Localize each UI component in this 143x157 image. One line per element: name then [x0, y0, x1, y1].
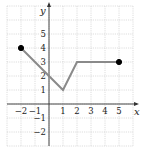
y-axis-label: y [39, 5, 46, 16]
y-axis-arrow [47, 2, 51, 7]
x-tick-label: 4 [102, 106, 107, 116]
tick-labels: −2−112345−2−112345 [15, 29, 122, 137]
y-tick-label: 5 [41, 29, 46, 39]
x-tick-label: 5 [116, 106, 121, 116]
endpoint-dot [116, 59, 121, 64]
x-axis-label: x [134, 106, 140, 117]
y-tick-label: −1 [33, 113, 46, 123]
y-tick-label: 1 [41, 85, 46, 95]
x-tick-label: 1 [60, 106, 65, 116]
series-group [18, 45, 121, 90]
chart: −2−112345−2−112345 x y [0, 0, 143, 157]
series-line [21, 48, 119, 90]
y-tick-label: −2 [33, 127, 46, 137]
y-tick-label: 4 [41, 43, 46, 53]
x-tick-label: −2 [15, 106, 28, 116]
y-tick-label: 3 [41, 57, 46, 67]
endpoint-dot [18, 45, 23, 50]
x-tick-label: 2 [74, 106, 79, 116]
x-tick-label: 3 [88, 106, 93, 116]
